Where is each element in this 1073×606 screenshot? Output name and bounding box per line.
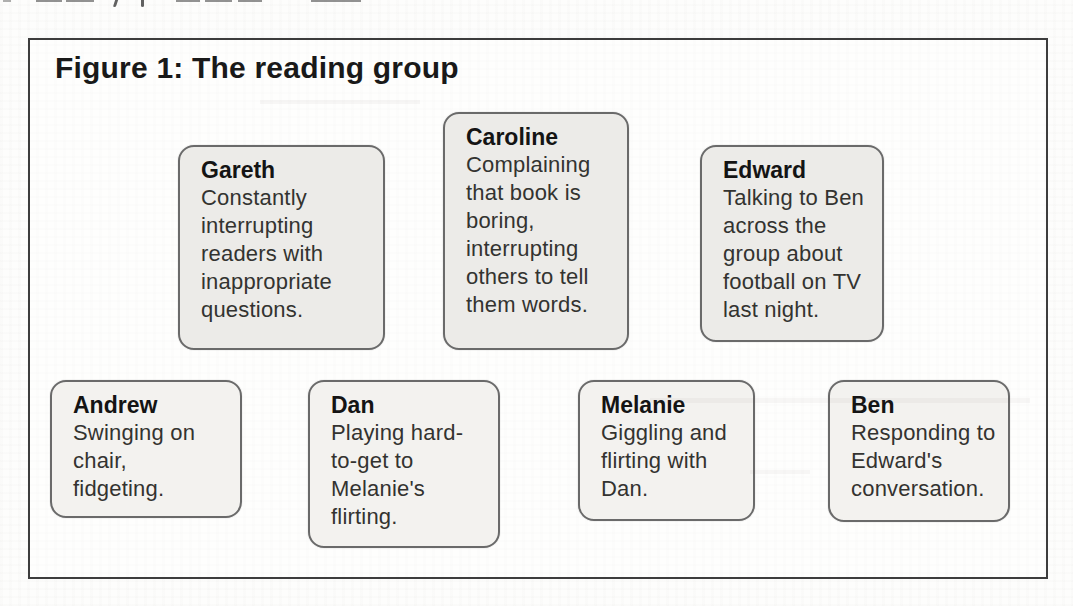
cropped-text-remnant: [113, 0, 118, 7]
cropped-text-remnant: [66, 0, 94, 2]
person-box-melanie: Melanie Giggling and flirting with Dan.: [578, 380, 755, 521]
person-box-ben: Ben Responding to Edward's conversation.: [828, 380, 1010, 522]
person-name: Dan: [331, 391, 490, 419]
scan-streak: [260, 100, 420, 104]
cropped-text-remnant: [238, 0, 262, 2]
cropped-text-remnant: [141, 0, 144, 7]
person-description: Giggling and flirting with Dan.: [601, 419, 745, 503]
scan-streak: [750, 470, 810, 474]
cropped-text-remnant: [205, 0, 232, 2]
person-box-dan: Dan Playing hard- to-get to Melanie's fl…: [308, 380, 500, 548]
person-box-andrew: Andrew Swinging on chair, fidgeting.: [50, 380, 242, 518]
person-description: Playing hard- to-get to Melanie's flirti…: [331, 419, 490, 531]
cropped-text-remnant: [176, 0, 200, 2]
cropped-text-remnant: [311, 0, 361, 2]
person-box-edward: Edward Talking to Ben across the group a…: [700, 145, 884, 342]
person-name: Caroline: [466, 123, 619, 151]
person-description: Responding to Edward's conversation.: [851, 419, 1000, 503]
person-box-gareth: Gareth Constantly interrupting readers w…: [178, 145, 385, 350]
person-description: Constantly interrupting readers with ina…: [201, 184, 375, 324]
person-box-caroline: Caroline Complaining that book is boring…: [443, 112, 629, 350]
cropped-text-line-remnants: [0, 0, 600, 10]
person-name: Edward: [723, 156, 874, 184]
person-description: Swinging on chair, fidgeting.: [73, 419, 232, 503]
figure-title: Figure 1: The reading group: [55, 51, 459, 85]
person-description: Complaining that book is boring, interru…: [466, 151, 619, 319]
person-description: Talking to Ben across the group about fo…: [723, 184, 874, 324]
scanned-page: Figure 1: The reading group Gareth Const…: [0, 0, 1073, 606]
cropped-text-remnant: [36, 0, 62, 2]
person-name: Andrew: [73, 391, 232, 419]
figure-frame: Figure 1: The reading group Gareth Const…: [28, 38, 1048, 579]
person-name: Melanie: [601, 391, 745, 419]
person-name: Ben: [851, 391, 1000, 419]
person-name: Gareth: [201, 156, 375, 184]
cropped-text-remnant: [3, 0, 11, 2]
